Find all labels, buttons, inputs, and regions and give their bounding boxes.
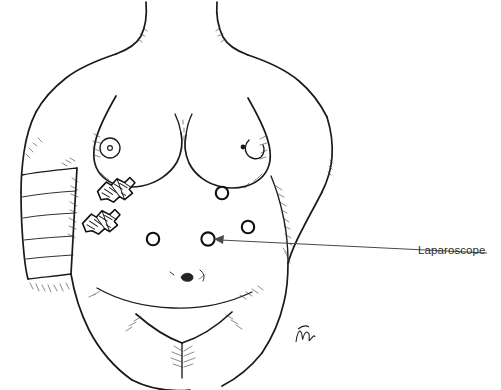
right-flank-shading xyxy=(271,176,292,263)
laparoscope-label: Laparoscope xyxy=(418,243,486,257)
port-site-upper-mid[interactable] xyxy=(216,187,228,199)
port-site-left-lower[interactable] xyxy=(147,233,159,245)
navel-mark xyxy=(170,270,205,281)
abdominal-wall xyxy=(89,286,263,308)
lower-abdomen-v-contour xyxy=(126,312,242,378)
breast-contours-with-nipples xyxy=(93,96,270,188)
artist-signature xyxy=(296,326,315,342)
port-site-right-lateral[interactable] xyxy=(242,221,254,233)
torso-contours xyxy=(71,263,288,390)
shoulder-contours xyxy=(36,54,327,117)
laparoscopy-illustration-figure: Laparoscope xyxy=(0,0,501,390)
leader-arrowhead xyxy=(214,235,224,244)
port-site-laparoscope[interactable] xyxy=(201,232,214,245)
bandaged-left-arm xyxy=(21,112,78,292)
illustration-canvas xyxy=(0,0,501,390)
port-sites-group xyxy=(147,187,254,246)
right-arm-contour xyxy=(288,117,333,263)
trocar-instrument-lower[interactable] xyxy=(80,202,125,241)
neck-outline xyxy=(116,2,248,55)
